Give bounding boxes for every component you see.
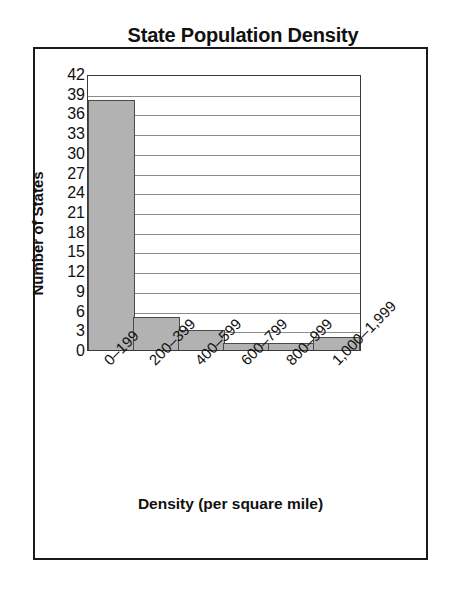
y-tick-label: 15 [67,244,85,260]
y-tick-label: 27 [67,166,85,182]
y-tick-label: 24 [67,185,85,201]
y-tick-label: 0 [76,343,85,359]
y-tick-label: 9 [76,284,85,300]
y-tick-label: 3 [76,323,85,339]
y-tick-label: 36 [67,106,85,122]
plot-area [87,75,361,351]
x-axis-title: Density (per square mile) [33,495,428,513]
chart-title: State Population Density [0,24,452,47]
bars-layer [88,76,360,350]
y-tick-label: 30 [67,146,85,162]
bar-1 [88,100,135,350]
y-axis-title: Number of States [29,134,46,334]
y-tick-label: 12 [67,264,85,280]
y-tick-label: 39 [67,87,85,103]
y-tick-label: 21 [67,205,85,221]
y-tick-label: 18 [67,225,85,241]
x-axis-tick-labels: 0–199200–399400–599600–799800–9991,000–1… [87,351,361,461]
y-axis-tick-labels: 42393633302724211815129630 [52,75,85,351]
y-tick-label: 6 [76,304,85,320]
y-tick-label: 42 [67,67,85,83]
y-tick-label: 33 [67,126,85,142]
